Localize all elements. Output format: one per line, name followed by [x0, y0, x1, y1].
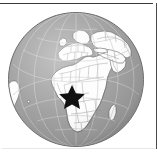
globe-locator-figure: Orthographic globe locator map centred o…: [0, 0, 157, 159]
top-rule-divider: [0, 3, 153, 4]
right-rule-divider: [156, 3, 157, 149]
bottom-rule-divider: [2, 148, 155, 149]
limb-shading: [9, 13, 144, 147]
globe-container: [7, 11, 145, 148]
globe-svg: [7, 11, 145, 148]
